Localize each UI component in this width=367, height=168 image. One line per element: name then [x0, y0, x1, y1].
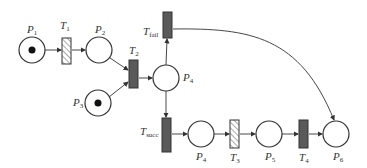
place-p4-upper: [153, 65, 179, 91]
label-t2: T2: [129, 45, 139, 58]
label-tsucc: Tsucc: [140, 126, 159, 139]
petri-net-diagram: P1 T1 P2 T2 Tfail P3 P4 Tsucc P4 T3 P5 T…: [0, 0, 367, 168]
transition-t1: [62, 38, 71, 64]
place-p1: [19, 37, 45, 63]
label-p3: P3: [73, 97, 83, 110]
transition-t4: [299, 120, 308, 148]
transition-t3: [230, 120, 239, 148]
place-p5: [256, 121, 282, 147]
label-t4: T4: [299, 152, 309, 165]
label-p1: P1: [27, 24, 37, 37]
label-p4-lower: P4: [196, 151, 206, 164]
label-p5: P5: [265, 151, 275, 164]
place-p3: [85, 90, 111, 116]
transition-tsucc: [162, 118, 171, 152]
label-t3: T3: [230, 152, 240, 165]
transition-tfail: [163, 12, 172, 38]
place-p2: [86, 37, 112, 63]
label-tfail: Tfail: [143, 26, 158, 39]
label-p4-upper: P4: [183, 72, 193, 85]
place-p4-lower: [188, 121, 214, 147]
token-icon: [29, 47, 36, 54]
label-p2: P2: [95, 24, 105, 37]
label-p6: P6: [333, 151, 343, 164]
label-t1: T1: [60, 20, 70, 33]
token-icon: [95, 100, 102, 107]
place-p6: [323, 121, 349, 147]
transition-t2: [129, 60, 138, 88]
